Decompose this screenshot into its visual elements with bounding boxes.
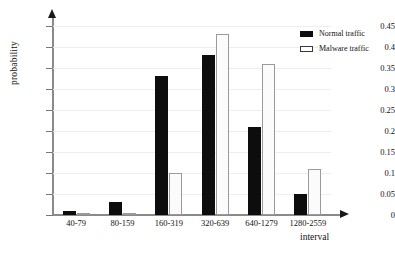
x-axis-arrow-icon: [340, 210, 349, 218]
y-axis-tick: [46, 89, 53, 90]
bar-group: [238, 26, 284, 215]
y-axis-tick-label: 0.3: [351, 84, 395, 94]
bar: [109, 202, 122, 215]
bar: [216, 34, 229, 215]
bar-group: [192, 26, 238, 215]
y-axis-tick-label: 0.25: [351, 105, 395, 115]
y-axis-tick: [46, 47, 53, 48]
y-axis-tick: [46, 131, 53, 132]
legend-item: Normal traffic: [300, 26, 369, 41]
y-axis-label: probability: [9, 23, 19, 103]
bar: [308, 169, 321, 215]
y-axis-tick: [46, 173, 53, 174]
bar: [262, 64, 275, 215]
y-axis-tick: [46, 26, 53, 27]
x-axis-category-label: 1280-2559: [285, 218, 331, 228]
legend-label: Malware traffic: [319, 44, 369, 53]
legend-swatch-icon: [300, 46, 313, 52]
bar: [123, 213, 136, 215]
bar: [77, 213, 90, 215]
y-axis-tick-label: 0: [351, 210, 395, 220]
x-axis-category-label: 640-1279: [238, 218, 284, 228]
plot-area: [53, 26, 331, 215]
x-axis-category-label: 320-639: [192, 218, 238, 228]
legend: Normal trafficMalware traffic: [300, 26, 369, 56]
bar: [155, 76, 168, 215]
y-axis-tick: [46, 68, 53, 69]
x-axis-category-label: 80-159: [99, 218, 145, 228]
y-axis-tick-label: 0.35: [351, 63, 395, 73]
y-axis-tick: [46, 110, 53, 111]
legend-label: Normal traffic: [319, 29, 365, 38]
y-axis-tick-label: 0.2: [351, 126, 395, 136]
y-axis-tick: [46, 152, 53, 153]
y-axis-tick: [46, 215, 53, 216]
y-axis-tick-label: 0.1: [351, 168, 395, 178]
x-axis-label: interval: [300, 232, 329, 242]
y-axis-tick-label: 0.05: [351, 189, 395, 199]
bar: [202, 55, 215, 215]
bar: [248, 127, 261, 215]
x-axis-category-label: 160-319: [146, 218, 192, 228]
x-axis-category-label: 40-79: [53, 218, 99, 228]
bar-group: [146, 26, 192, 215]
y-axis-tick-label: 0.15: [351, 147, 395, 157]
bar-group: [99, 26, 145, 215]
bar-group: [53, 26, 99, 215]
bar: [294, 194, 307, 215]
bar-chart-figure: probability interval 00.050.10.150.20.25…: [0, 0, 395, 255]
bar: [169, 173, 182, 215]
y-axis-arrow-icon: [48, 9, 56, 18]
y-axis-tick: [46, 194, 53, 195]
legend-item: Malware traffic: [300, 41, 369, 56]
legend-swatch-icon: [300, 31, 313, 37]
bar: [63, 211, 76, 215]
